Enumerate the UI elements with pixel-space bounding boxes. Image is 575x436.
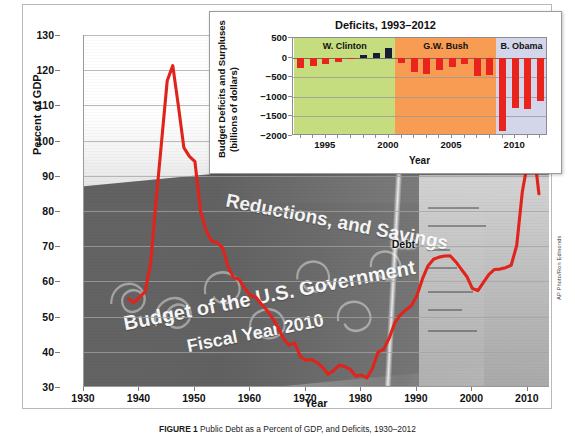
inset-chart: Deficits, 1993–2012 Budget Deficits and … <box>209 11 562 174</box>
inset-x-minor-tick <box>527 135 528 138</box>
figure-frame: Percent of GDP <box>22 4 552 409</box>
figure-caption-label: FIGURE 1 <box>159 424 198 434</box>
inset-x-minor-tick <box>514 135 515 138</box>
main-x-tick <box>305 387 306 391</box>
inset-x-minor-tick <box>350 135 351 138</box>
figure-caption-text: Public Debt as a Percent of GDP, and Def… <box>200 424 416 434</box>
inset-x-tick-label: 1995 <box>314 139 335 150</box>
main-x-tick <box>471 387 472 391</box>
inset-x-minor-tick <box>476 135 477 138</box>
figure-caption: FIGURE 1 Public Debt as a Percent of GDP… <box>0 424 575 434</box>
inset-x-minor-tick <box>388 135 389 138</box>
main-x-axis-title: Year <box>83 397 549 409</box>
inset-x-tick-label: 2010 <box>504 139 525 150</box>
inset-x-minor-tick <box>464 135 465 138</box>
inset-x-minor-tick <box>489 135 490 138</box>
inset-x-minor-tick <box>438 135 439 138</box>
inset-x-minor-tick <box>312 135 313 138</box>
main-x-tick <box>138 387 139 391</box>
inset-x-axis-labels: 1995200020052010 <box>210 12 563 175</box>
inset-x-minor-tick <box>337 135 338 138</box>
inset-x-minor-tick <box>426 135 427 138</box>
inset-x-minor-tick <box>363 135 364 138</box>
main-x-tick <box>249 387 250 391</box>
inset-x-minor-tick <box>413 135 414 138</box>
main-x-tick <box>416 387 417 391</box>
inset-x-tick-label: 2000 <box>377 139 398 150</box>
main-x-tick <box>83 387 84 391</box>
inset-x-minor-tick <box>539 135 540 138</box>
main-x-tick <box>194 387 195 391</box>
main-x-tick <box>527 387 528 391</box>
inset-x-minor-tick <box>451 135 452 138</box>
inset-x-minor-tick <box>300 135 301 138</box>
inset-x-tick-label: 2005 <box>440 139 461 150</box>
photo-credit: AP Photo/Ron Edmonds <box>556 235 562 300</box>
inset-x-minor-tick <box>401 135 402 138</box>
figure-container: Percent of GDP <box>0 0 575 436</box>
inset-x-axis-title: Year <box>292 155 547 166</box>
main-x-tick <box>360 387 361 391</box>
inset-x-minor-tick <box>325 135 326 138</box>
inset-x-minor-tick <box>375 135 376 138</box>
inset-x-minor-tick <box>502 135 503 138</box>
